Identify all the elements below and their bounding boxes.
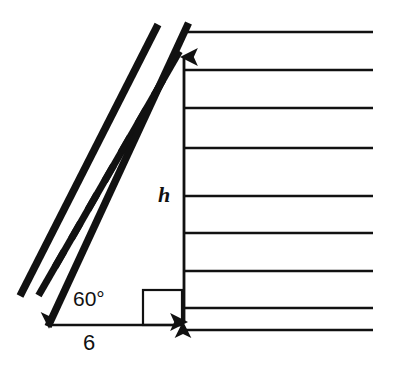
- base-length-label-6: 6: [83, 332, 95, 354]
- right-angle-square: [143, 290, 182, 325]
- height-label-h: h: [158, 184, 170, 206]
- angle-label-60-degrees: 60°: [73, 288, 105, 309]
- diagram-vector-layer: [0, 0, 394, 367]
- geometry-diagram-canvas: 60° h 6: [0, 0, 394, 367]
- ladder-rail-right: [48, 23, 189, 327]
- ladder-rail-left: [20, 25, 158, 297]
- wall-horizontal-lines: [184, 32, 373, 330]
- ladder-shape: [20, 23, 189, 327]
